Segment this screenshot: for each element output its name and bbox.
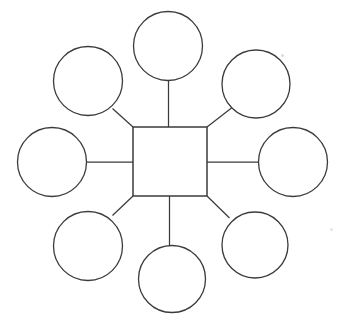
center-square[interactable] xyxy=(133,127,207,196)
node-bottom-left-circle[interactable] xyxy=(54,212,123,281)
node-bottom-right[interactable] xyxy=(222,212,288,278)
node-top-right[interactable] xyxy=(222,50,290,118)
node-right-circle[interactable] xyxy=(259,128,328,197)
node-left[interactable] xyxy=(18,128,87,197)
connector-bottom-right xyxy=(207,196,230,218)
center-node[interactable] xyxy=(133,127,207,196)
spider-web-diagram xyxy=(0,0,342,329)
node-top-left-circle[interactable] xyxy=(54,47,123,116)
node-top[interactable] xyxy=(134,12,203,81)
scan-speck-top-right xyxy=(281,54,284,57)
node-top-circle[interactable] xyxy=(134,12,203,81)
node-top-left[interactable] xyxy=(54,47,123,116)
node-bottom-circle[interactable] xyxy=(139,246,206,313)
node-bottom[interactable] xyxy=(139,246,206,313)
node-bottom-left[interactable] xyxy=(54,212,123,281)
node-left-circle[interactable] xyxy=(18,128,87,197)
node-top-right-circle[interactable] xyxy=(222,50,290,118)
node-bottom-right-circle[interactable] xyxy=(222,212,288,278)
node-right[interactable] xyxy=(259,128,328,197)
scan-speck-mid-right xyxy=(330,228,333,231)
connector-bottom-left xyxy=(113,196,134,216)
diagram-canvas xyxy=(0,0,342,329)
connector-top-right xyxy=(207,108,232,127)
connector-top-left xyxy=(113,109,134,128)
